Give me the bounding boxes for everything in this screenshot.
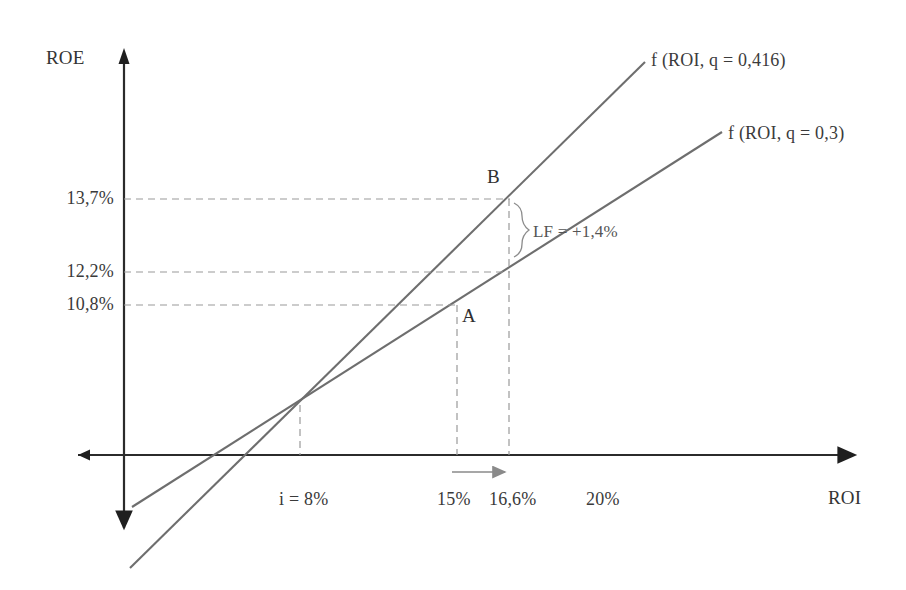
y-axis-top-arrowhead [119,48,130,64]
y-tick-label-137: 13,7% [46,188,114,209]
y-tick-label-108: 10,8% [46,294,114,315]
series-line-q03 [132,132,722,507]
leverage-brace [514,203,529,257]
series-line-q0416 [130,62,645,568]
series-label-q03: f (ROI, q = 0,3) [728,123,844,144]
x-axis [78,450,855,461]
x-axis-left-arrowhead [78,450,90,461]
point-label-a: A [462,305,476,327]
y-tick-label-122: 12,2% [46,261,114,282]
series-label-q0416: f (ROI, q = 0,416) [651,50,786,71]
chart-figure: ROE ROI 13,7% 12,2% 10,8% i = 8% 15% 16,… [0,0,906,590]
x-tick-label-20: 20% [586,489,620,510]
x-axis-title: ROI [828,487,861,509]
x-tick-label-i8: i = 8% [279,489,328,510]
x-tick-label-15: 15% [437,489,471,510]
x-tick-label-166: 16,6% [489,489,537,510]
leverage-effect-label: LF = +1,4% [533,222,618,242]
point-label-b: B [487,166,500,188]
y-axis-title: ROE [46,47,85,69]
